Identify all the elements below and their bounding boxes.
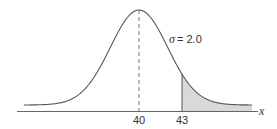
chart-canvas: σ = 2.0 40 43 x	[0, 0, 277, 129]
normal-curve	[24, 10, 252, 105]
x-axis-label: x	[258, 104, 265, 118]
normal-distribution-chart: σ = 2.0 40 43 x	[0, 0, 277, 129]
sigma-label: = 2.0	[177, 33, 202, 45]
shaded-tail-area	[182, 74, 252, 111]
tick-label-40: 40	[133, 114, 145, 126]
sigma-symbol: σ	[169, 32, 176, 46]
tick-label-43: 43	[176, 114, 188, 126]
